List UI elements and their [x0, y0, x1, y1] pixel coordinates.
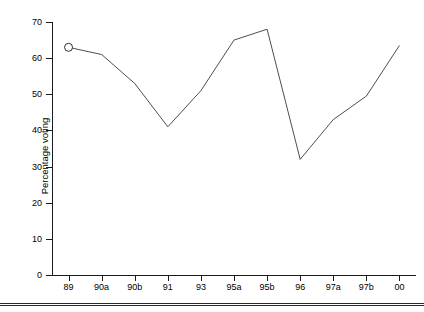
footer-rule-top	[0, 303, 424, 304]
chart-figure: Percentage voting 010203040506070 8990a9…	[0, 0, 424, 312]
series-line	[69, 29, 400, 159]
data-marker-circle	[65, 43, 73, 51]
data-series-layer	[0, 0, 424, 312]
data-markers	[65, 43, 73, 51]
footer-rule-bottom	[0, 305, 424, 306]
